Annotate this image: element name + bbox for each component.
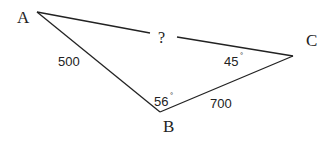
- angle-c-degree: °: [240, 51, 243, 60]
- side-label-ac-unknown: ?: [158, 29, 165, 46]
- angle-b-degree: °: [170, 91, 173, 100]
- vertex-label-a: A: [17, 8, 30, 27]
- side-label-bc: 700: [210, 96, 232, 111]
- vertex-label-c: C: [306, 31, 317, 50]
- side-ab: [37, 12, 160, 112]
- side-ac-left: [37, 12, 150, 33]
- angle-label-c: 45: [224, 54, 238, 69]
- side-label-ab: 500: [58, 54, 80, 69]
- vertex-label-b: B: [163, 117, 174, 136]
- triangle-diagram: A B C 500 700 ? 56 ° 45 °: [0, 0, 333, 141]
- angle-label-b: 56: [154, 94, 168, 109]
